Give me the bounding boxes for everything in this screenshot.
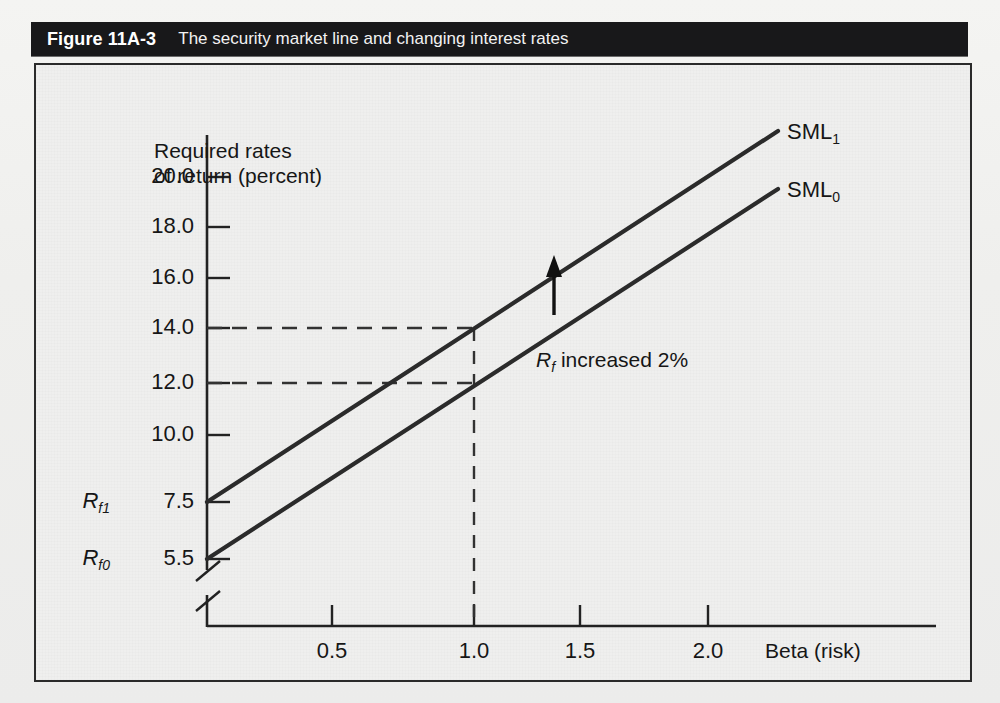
up-arrow-icon: [546, 255, 562, 315]
figure-number: Figure 11A-3: [31, 29, 156, 50]
rf1-symbol: R: [82, 488, 98, 513]
y-tick-label-7-5: 7.5: [118, 488, 194, 514]
rf0-intercept-label: Rf0: [50, 545, 110, 574]
x-tick-label-2-0: 2.0: [673, 638, 743, 664]
chart-frame: Required rates of return (percent) 20.0 …: [34, 63, 972, 682]
rf-annotation-symbol: R: [536, 348, 551, 371]
rf-annotation-text: increased 2%: [555, 348, 688, 371]
y-tick-label-14: 14.0: [118, 314, 194, 340]
rf-increase-annotation: Rf increased 2%: [536, 348, 688, 376]
y-tick-label-16: 16.0: [118, 264, 194, 290]
sml0-label-text: SML: [787, 177, 832, 202]
rf1-intercept-label: Rf1: [50, 488, 110, 517]
sml1-label-text: SML: [787, 119, 832, 144]
y-tick-label-5-5: 5.5: [118, 545, 194, 571]
rf0-symbol: R: [82, 545, 98, 570]
y-tick-label-20: 20.0: [118, 163, 194, 189]
x-tick-label-1-0: 1.0: [439, 638, 509, 664]
y-tick-label-10: 10.0: [118, 421, 194, 447]
sml0-label-sub: 0: [832, 189, 840, 205]
sml1-label-sub: 1: [832, 131, 840, 147]
x-tick-label-1-5: 1.5: [545, 638, 615, 664]
x-tick-label-0-5: 0.5: [297, 638, 367, 664]
rf1-subscript: f1: [98, 500, 110, 516]
y-tick-label-18: 18.0: [118, 213, 194, 239]
figure-header-bar: Figure 11A-3 The security market line an…: [31, 22, 968, 56]
sml0-series-label: SML0: [787, 177, 840, 206]
x-axis-title: Beta (risk): [765, 639, 861, 664]
y-tick-label-12: 12.0: [118, 369, 194, 395]
page-background: Figure 11A-3 The security market line an…: [0, 0, 1000, 703]
y-axis-title-line1: Required rates: [154, 139, 322, 164]
rf0-subscript: f0: [98, 557, 110, 573]
sml0-line: [207, 189, 778, 559]
figure-title: The security market line and changing in…: [156, 29, 568, 49]
sml1-series-label: SML1: [787, 119, 840, 148]
